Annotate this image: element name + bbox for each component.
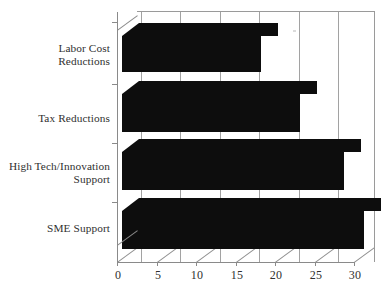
scan-artifact-speck [293, 30, 296, 32]
bar-top-face-labor-cost-reductions [122, 23, 278, 36]
x-axis-label-25: 25 [310, 268, 322, 283]
bar-sme-support [122, 211, 364, 249]
y-axis-tick-1 [112, 84, 118, 85]
origin-depth-edge [117, 245, 141, 263]
depth-connector-5 [157, 247, 178, 263]
x-axis-tick-25 [315, 262, 316, 266]
x-axis-tick-10 [196, 262, 197, 266]
depth-connector-15 [236, 247, 257, 263]
x-axis-tick-5 [157, 262, 158, 266]
y-axis-tick-3 [112, 202, 118, 203]
y-axis-line [117, 12, 118, 263]
plot-area: 0 5 10 15 20 25 30 [0, 0, 388, 288]
x-axis-label-5: 5 [155, 268, 161, 283]
depth-connector-30 [354, 247, 375, 263]
depth-connector-25 [315, 247, 336, 263]
x-axis-tick-15 [236, 262, 237, 266]
plot-back-right-edge [374, 11, 375, 262]
x-axis-label-20: 20 [270, 268, 282, 283]
y-axis-tick-2 [112, 143, 118, 144]
bar-top-face-tax-reductions [122, 81, 317, 94]
bar-tax-reductions [122, 94, 300, 132]
x-axis-label-15: 15 [231, 268, 243, 283]
plot-back-top-edge [137, 11, 375, 12]
depth-connector-10 [196, 247, 217, 263]
x-axis-tick-0 [117, 262, 118, 266]
x-axis-tick-30 [354, 262, 355, 266]
bar-top-face-sme-support [122, 198, 381, 211]
bar-chart: Labor Cost Reductions Tax Reductions Hig… [0, 0, 388, 288]
bar-top-face-high-tech-innovation-support [122, 139, 361, 152]
x-axis-label-30: 30 [349, 268, 361, 283]
depth-connector-20 [275, 247, 296, 263]
top-depth-edge [117, 12, 142, 32]
x-axis-label-0: 0 [115, 268, 121, 283]
x-axis-tick-20 [275, 262, 276, 266]
y-axis-tick-0 [112, 22, 118, 23]
bar-high-tech-innovation-support [122, 152, 344, 190]
x-axis-label-10: 10 [191, 268, 203, 283]
bar-labor-cost-reductions [122, 36, 261, 72]
